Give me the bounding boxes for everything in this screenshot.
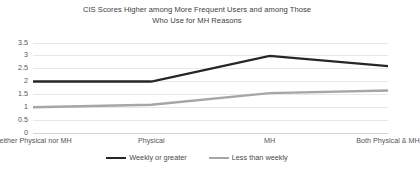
chart-title: CIS Scores Higher among More Frequent Us… — [30, 5, 364, 26]
y-axis-tick-label: 1.5 — [0, 90, 28, 97]
y-axis-tick-label: 3 — [0, 52, 28, 59]
y-axis-tick-label: 3.5 — [0, 39, 28, 46]
y-axis-labels: 00.511.522.533.5 — [0, 43, 28, 133]
series-line — [33, 90, 388, 107]
legend-item[interactable]: Less than weekly — [209, 154, 288, 162]
data-series-layer — [33, 43, 388, 133]
chart-legend: Weekly or greaterLess than weekly — [0, 154, 394, 162]
legend-swatch — [106, 157, 126, 160]
series-line — [33, 55, 388, 81]
legend-label: Less than weekly — [232, 154, 288, 162]
legend-label: Weekly or greater — [129, 154, 186, 162]
chart-title-line-1: CIS Scores Higher among More Frequent Us… — [30, 5, 364, 16]
x-axis-labels: Neither Physical nor MHPhysicalMHBoth Ph… — [33, 136, 388, 150]
x-axis-tick-label: Physical — [138, 136, 165, 145]
legend-swatch — [209, 157, 229, 160]
chart-title-line-2: Who Use for MH Reasons — [30, 16, 364, 27]
gridline — [33, 133, 388, 134]
y-axis-tick-label: 2 — [0, 77, 28, 84]
x-axis-tick-label: Neither Physical nor MH — [0, 136, 72, 145]
legend-item[interactable]: Weekly or greater — [106, 154, 186, 162]
y-axis-tick-label: 2.5 — [0, 65, 28, 72]
y-axis-tick-label: 1 — [0, 103, 28, 110]
y-axis-tick-label: 0.5 — [0, 116, 28, 123]
x-axis-tick-label: Both Physical & MH — [356, 136, 420, 145]
x-axis-tick-label: MH — [264, 136, 275, 145]
